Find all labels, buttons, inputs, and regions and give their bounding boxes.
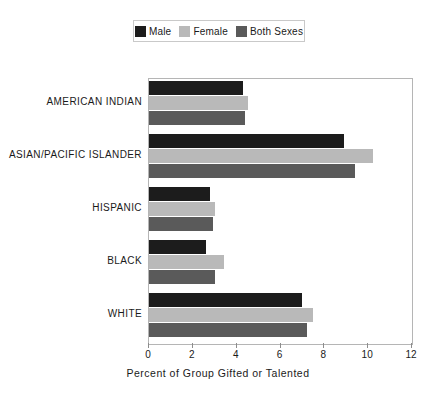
legend-swatch-male <box>135 26 146 37</box>
x-tick-label: 2 <box>177 349 207 360</box>
category-label: WHITE <box>0 308 142 319</box>
category-label: ASIAN/PACIFIC ISLANDER <box>0 149 142 160</box>
legend-label-both-sexes: Both Sexes <box>250 26 303 37</box>
chart-legend: Male Female Both Sexes <box>133 20 305 42</box>
x-tick-mark <box>236 343 237 348</box>
category-label: BLACK <box>0 255 142 266</box>
bar-male <box>149 293 302 307</box>
x-tick-mark <box>367 343 368 348</box>
x-tick-label: 12 <box>396 349 426 360</box>
bar-male <box>149 81 243 95</box>
bar-female <box>149 96 248 110</box>
bar-group <box>149 134 412 178</box>
bar-female <box>149 308 313 322</box>
bar-male <box>149 134 344 148</box>
bar-both <box>149 270 215 284</box>
bar-both <box>149 111 245 125</box>
x-axis-title: Percent of Group Gifted or Talented <box>0 367 436 379</box>
bar-group <box>149 81 412 125</box>
x-tick-mark <box>148 343 149 348</box>
bar-both <box>149 164 355 178</box>
legend-swatch-female <box>179 26 190 37</box>
legend-entry-both-sexes: Both Sexes <box>236 26 303 37</box>
bar-male <box>149 240 206 254</box>
x-tick-label: 0 <box>133 349 163 360</box>
plot-area <box>148 78 413 345</box>
x-tick-label: 10 <box>352 349 382 360</box>
x-tick-label: 8 <box>308 349 338 360</box>
category-label: HISPANIC <box>0 202 142 213</box>
bars-container <box>149 79 412 344</box>
x-tick-label: 4 <box>221 349 251 360</box>
x-tick-mark <box>411 343 412 348</box>
bar-female <box>149 149 373 163</box>
bar-both <box>149 323 307 337</box>
bar-group <box>149 187 412 231</box>
x-tick-mark <box>192 343 193 348</box>
bar-female <box>149 202 215 216</box>
x-tick-label: 6 <box>265 349 295 360</box>
bar-female <box>149 255 224 269</box>
x-tick-mark <box>323 343 324 348</box>
bar-both <box>149 217 213 231</box>
x-tick-mark <box>280 343 281 348</box>
legend-swatch-both-sexes <box>236 26 247 37</box>
legend-label-male: Male <box>149 26 171 37</box>
legend-entry-male: Male <box>135 26 171 37</box>
legend-label-female: Female <box>193 26 228 37</box>
bar-group <box>149 293 412 337</box>
bar-group <box>149 240 412 284</box>
category-label: AMERICAN INDIAN <box>0 96 142 107</box>
bar-male <box>149 187 210 201</box>
legend-entry-female: Female <box>179 26 228 37</box>
